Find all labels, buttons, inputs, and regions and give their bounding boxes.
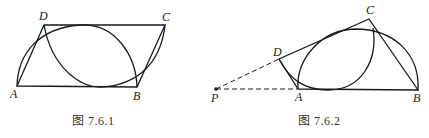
arc-ab-tangent-dc bbox=[17, 25, 137, 87]
label-d: D bbox=[38, 9, 48, 23]
label-b: B bbox=[133, 89, 141, 103]
arc-ab-tangent-dc bbox=[298, 29, 418, 90]
label-c: C bbox=[162, 10, 171, 24]
caption-figure-1: 图 7.6.1 bbox=[72, 114, 115, 128]
label-p: P bbox=[210, 91, 219, 105]
caption-figure-2: 图 7.6.2 bbox=[298, 114, 341, 128]
label-a: A bbox=[9, 87, 18, 101]
figure-7-6-2: D C A B P 图 7.6.2 bbox=[210, 3, 421, 128]
arc-dc-tangent-ab bbox=[44, 25, 165, 87]
label-a: A bbox=[294, 90, 303, 104]
dashed-line-pd bbox=[216, 59, 279, 89]
figure-7-6-1: D C A B 图 7.6.1 bbox=[9, 9, 171, 128]
label-c: C bbox=[366, 3, 375, 17]
parallelogram-abcd bbox=[17, 25, 165, 87]
label-d: D bbox=[272, 45, 282, 59]
label-b: B bbox=[413, 91, 421, 105]
diagram-canvas: D C A B 图 7.6.1 D C A B P 图 7.6.2 bbox=[0, 0, 429, 138]
